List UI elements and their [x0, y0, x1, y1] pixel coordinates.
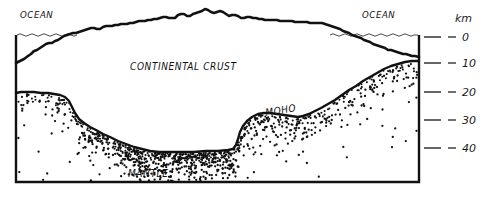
- stipple-dot: [108, 142, 110, 144]
- stipple-dot: [296, 122, 298, 124]
- stipple-dot: [139, 151, 141, 153]
- stipple-dot: [134, 161, 136, 163]
- stipple-dot: [275, 134, 277, 136]
- stipple-dot: [188, 179, 190, 181]
- stipple-dot: [206, 155, 208, 157]
- stipple-dot: [180, 162, 182, 164]
- stipple-dot: [370, 86, 372, 88]
- stipple-dot: [76, 123, 78, 125]
- stipple-dot: [31, 98, 33, 100]
- stipple-dot: [172, 157, 174, 159]
- stipple-dot: [17, 101, 19, 103]
- stipple-dot: [48, 94, 50, 96]
- stipple-dot: [172, 164, 174, 166]
- stipple-dot: [203, 171, 205, 173]
- stipple-dot: [119, 148, 121, 150]
- stipple-dot: [281, 125, 283, 127]
- stipple-dot: [346, 124, 348, 126]
- stipple-dot: [224, 157, 226, 159]
- stipple-dot: [229, 160, 231, 162]
- axis-unit-label: km: [455, 12, 472, 25]
- stipple-dot: [78, 142, 80, 144]
- stipple-dot: [219, 159, 221, 161]
- section-frame: [16, 35, 419, 182]
- stipple-dot: [107, 148, 109, 150]
- stipple-dot: [358, 89, 360, 91]
- stipple-dot: [99, 135, 101, 137]
- stipple-dot: [88, 130, 90, 132]
- stipple-dot: [287, 118, 289, 120]
- stipple-dot: [314, 132, 316, 134]
- stipple-dot: [223, 155, 225, 157]
- stipple-dot: [91, 151, 93, 153]
- stipple-dot: [206, 158, 208, 160]
- stipple-dot: [293, 137, 295, 139]
- stipple-dot: [403, 78, 405, 80]
- stipple-dot: [386, 73, 388, 75]
- stipple-dot: [198, 157, 200, 159]
- stipple-dot: [190, 168, 192, 170]
- stipple-dot: [306, 162, 308, 164]
- stipple-dot: [336, 102, 338, 104]
- axis-label-20: 20: [462, 86, 476, 99]
- stipple-dot: [204, 177, 206, 179]
- stipple-dot: [148, 164, 150, 166]
- stipple-dot: [371, 78, 373, 80]
- stipple-dot: [379, 74, 381, 76]
- stipple-dot: [260, 121, 262, 123]
- stipple-dot: [298, 122, 300, 124]
- stipple-dot: [208, 155, 210, 157]
- stipple-dot: [396, 66, 398, 68]
- axis-label-10: 10: [462, 57, 476, 70]
- stipple-dot: [410, 63, 412, 65]
- stipple-dot: [228, 168, 230, 170]
- stipple-dot: [232, 158, 234, 160]
- stipple-dot: [45, 106, 47, 108]
- stipple-dot: [277, 136, 279, 138]
- stipple-dot: [183, 173, 185, 175]
- stipple-dot: [205, 161, 207, 163]
- stipple-dot: [64, 104, 66, 106]
- stipple-dot: [374, 84, 376, 86]
- stipple-dot: [157, 163, 159, 165]
- stipple-dot: [141, 165, 143, 167]
- stipple-dot: [364, 95, 366, 97]
- stipple-dot: [209, 152, 211, 154]
- stipple-dot: [113, 148, 115, 150]
- stipple-dot: [157, 157, 159, 159]
- stipple-dot: [256, 118, 258, 120]
- stipple-dot: [219, 164, 221, 166]
- stipple-dot: [266, 118, 268, 120]
- stipple-dot: [105, 153, 107, 155]
- stipple-dot: [392, 136, 394, 138]
- stipple-dot: [217, 164, 219, 166]
- stipple-dot: [165, 155, 167, 157]
- stipple-dot: [273, 122, 275, 124]
- stipple-dot: [346, 156, 348, 158]
- stipple-dot: [324, 110, 326, 112]
- stipple-dot: [264, 119, 266, 121]
- stipple-dot: [150, 157, 152, 159]
- stipple-dot: [280, 119, 282, 121]
- stipple-dot: [247, 177, 249, 179]
- stipple-dot: [346, 93, 348, 95]
- stipple-dot: [203, 157, 205, 159]
- stipple-dot: [304, 117, 306, 119]
- stipple-dot: [221, 154, 223, 156]
- stipple-dot: [27, 100, 29, 102]
- stipple-dot: [86, 129, 88, 131]
- stipple-dot: [191, 170, 193, 172]
- stipple-dot: [251, 138, 253, 140]
- stipple-dot: [187, 157, 189, 159]
- stipple-dot: [108, 153, 110, 155]
- stipple-dot: [95, 151, 97, 153]
- stipple-dot: [127, 147, 129, 149]
- stipple-dot: [294, 135, 296, 137]
- stipple-dot: [305, 131, 307, 133]
- stipple-dot: [383, 75, 385, 77]
- stipple-dot: [77, 121, 79, 123]
- stipple-dot: [289, 134, 291, 136]
- stipple-dot: [193, 164, 195, 166]
- stipple-dot: [331, 119, 333, 121]
- stipple-dot: [235, 159, 237, 161]
